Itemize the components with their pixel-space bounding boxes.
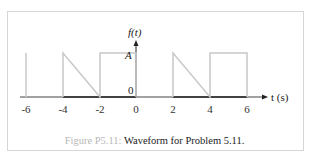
caption-text: Waveform for Problem 5.11. [121,135,244,146]
x-axis-arrow-icon [262,95,268,100]
x-axis-label: t (s) [271,91,288,103]
x-tick-label: 2 [170,103,176,115]
x-tick-label: -6 [21,103,30,115]
waveform [26,53,247,97]
x-tick-label: 0 [133,103,139,115]
zero-label: 0 [128,84,134,96]
y-axis-arrow-icon [134,40,139,46]
x-tick-label: 4 [207,103,213,115]
x-tick-label: -4 [58,103,67,115]
y-axis-label: f(t) [128,26,141,38]
figure-caption: Figure P5.11: Waveform for Problem 5.11. [0,135,309,146]
x-tick-label: 6 [244,103,250,115]
caption-label: Figure P5.11: [65,135,122,146]
x-tick-label: -2 [95,103,104,115]
amplitude-label: A [125,49,132,61]
